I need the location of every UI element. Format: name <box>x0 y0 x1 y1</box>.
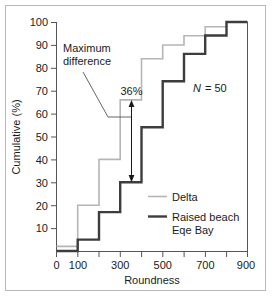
cumulative-frequency-chart: 100 90 80 70 60 50 40 30 20 10 Cumulativ… <box>0 0 272 297</box>
y-tick-10: 10 <box>36 222 48 234</box>
x-tick-100: 100 <box>69 259 87 271</box>
legend-label-raised-beach-line2: Eqe Bay <box>172 224 214 236</box>
x-axis-tick-labels: 0 100 300 500 700 900 <box>53 259 255 271</box>
y-tick-20: 20 <box>36 200 48 212</box>
y-axis-title: Cumulative (%) <box>10 99 22 174</box>
chart-legend: Delta Raised beach Eqe Bay <box>148 191 239 237</box>
y-tick-30: 30 <box>36 177 48 189</box>
y-tick-40: 40 <box>36 154 48 166</box>
y-tick-100: 100 <box>30 16 48 28</box>
y-axis-ticks <box>51 23 57 229</box>
x-tick-500: 500 <box>154 259 172 271</box>
figure-container: 100 90 80 70 60 50 40 30 20 10 Cumulativ… <box>0 0 272 297</box>
x-axis-title: Roundness <box>124 274 180 286</box>
y-axis-tick-labels: 100 90 80 70 60 50 40 30 20 10 <box>30 16 48 234</box>
y-tick-80: 80 <box>36 62 48 74</box>
max-difference-label-line2: difference <box>63 55 111 67</box>
x-tick-300: 300 <box>111 259 129 271</box>
sample-size-value: = 50 <box>205 82 227 94</box>
arrow-head-up <box>129 100 135 107</box>
y-tick-70: 70 <box>36 85 48 97</box>
x-tick-700: 700 <box>196 259 214 271</box>
sample-size-symbol: N <box>193 82 201 94</box>
sample-size-annotation: N= 50 <box>193 82 227 94</box>
difference-percent-label: 36% <box>120 85 142 97</box>
legend-label-delta: Delta <box>172 191 199 203</box>
x-tick-0: 0 <box>53 259 59 271</box>
y-tick-50: 50 <box>36 131 48 143</box>
y-tick-90: 90 <box>36 39 48 51</box>
legend-label-raised-beach-line1: Raised beach <box>172 211 239 223</box>
max-difference-label-line1: Maximum <box>63 42 111 54</box>
x-axis-ticks <box>57 252 248 258</box>
y-tick-60: 60 <box>36 108 48 120</box>
maximum-difference-annotation: Maximum difference <box>63 42 132 117</box>
x-tick-900: 900 <box>237 259 255 271</box>
